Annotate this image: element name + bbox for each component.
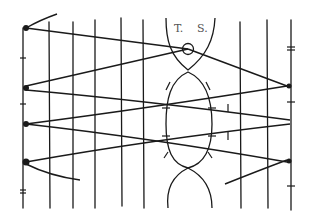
vertical-lines xyxy=(23,18,291,210)
threads xyxy=(26,14,290,184)
label-s: S. xyxy=(197,22,208,35)
label-t: T. xyxy=(174,22,183,35)
suture-diagram xyxy=(0,0,312,222)
anchor-knots xyxy=(23,25,292,166)
